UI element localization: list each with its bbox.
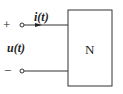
current-label: i(t) [34,11,49,23]
plus-terminal-node [20,23,24,27]
network-label: N [85,43,94,56]
plus-sign: + [3,18,10,31]
voltage-label: u(t) [7,42,25,54]
minus-terminal-node [20,69,24,73]
minus-sign: − [4,64,11,77]
